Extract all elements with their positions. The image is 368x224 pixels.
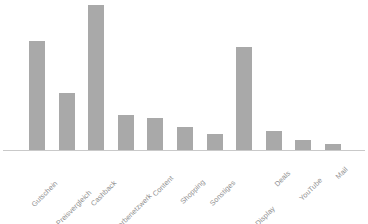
tick-label-mail: Mail	[334, 166, 349, 181]
tick-label-werbenetzwerk: Werbenetzwerk	[112, 192, 154, 224]
tick-label-gutschein: Gutschein	[30, 180, 59, 209]
bar-shopping	[177, 127, 193, 150]
tick-label-deals: Deals	[273, 169, 292, 188]
bar-performance-display	[236, 47, 252, 150]
bar-sonstiges	[207, 134, 223, 150]
x-axis-tick-labels: Gutschein Preisvergleich Cashback Werben…	[0, 151, 368, 224]
tick-label-preisvergleich: Preisvergleich	[54, 189, 93, 224]
tick-label-youtube: YouTube	[298, 176, 324, 202]
tick-label-shopping: Shopping	[179, 178, 207, 206]
bar-preisvergleich	[59, 93, 75, 150]
bar-deals	[266, 131, 282, 150]
tick-label-content: Content	[152, 174, 176, 198]
bar-chart: Gutschein Preisvergleich Cashback Werben…	[0, 0, 368, 224]
tick-label-cashback: Cashback	[90, 179, 119, 208]
bar-youtube	[295, 140, 311, 150]
plot-area	[0, 0, 368, 151]
bar-content	[147, 118, 163, 150]
bar-werbenetzwerk	[118, 115, 134, 150]
bar-gutschein	[29, 41, 45, 150]
tick-label-sonstiges: Sonstiges	[208, 179, 237, 208]
bar-cashback	[88, 5, 104, 150]
tick-label-performance-display: Performance-Display	[223, 205, 277, 224]
